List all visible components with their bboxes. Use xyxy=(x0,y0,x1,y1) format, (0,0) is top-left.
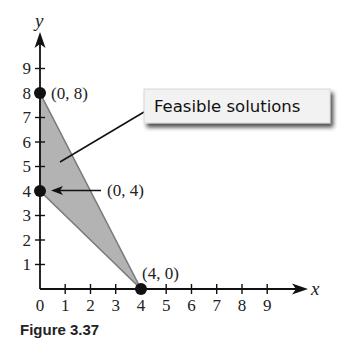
label-point-0-8: (0, 8) xyxy=(51,84,88,103)
svg-text:9: 9 xyxy=(263,296,272,315)
figure-caption: Figure 3.37 xyxy=(20,321,99,338)
svg-text:8: 8 xyxy=(23,84,32,103)
x-axis-label: x xyxy=(310,278,320,299)
svg-text:7: 7 xyxy=(23,108,32,127)
svg-text:7: 7 xyxy=(212,296,221,315)
y-axis-label: y xyxy=(33,10,44,31)
x-tick-labels: 0 1 2 3 4 5 6 7 8 9 xyxy=(36,296,272,315)
callout-text: Feasible solutions xyxy=(154,97,300,116)
label-point-4-0: (4, 0) xyxy=(142,264,179,283)
svg-text:5: 5 xyxy=(23,157,32,176)
callout-leader-line xyxy=(60,112,144,162)
svg-text:1: 1 xyxy=(23,255,32,274)
point-4-0 xyxy=(135,283,147,295)
svg-text:9: 9 xyxy=(23,59,32,78)
point-0-4 xyxy=(34,185,46,197)
svg-text:2: 2 xyxy=(23,231,32,250)
svg-text:5: 5 xyxy=(162,296,171,315)
label-point-0-4: (0, 4) xyxy=(107,181,144,200)
svg-text:8: 8 xyxy=(238,296,247,315)
svg-text:3: 3 xyxy=(23,206,32,225)
svg-text:4: 4 xyxy=(137,296,146,315)
svg-text:6: 6 xyxy=(23,133,32,152)
svg-text:0: 0 xyxy=(36,296,45,315)
svg-text:1: 1 xyxy=(61,296,70,315)
y-tick-labels: 1 2 3 4 5 6 7 8 9 xyxy=(23,59,32,274)
svg-text:6: 6 xyxy=(187,296,196,315)
svg-text:2: 2 xyxy=(86,296,95,315)
svg-text:4: 4 xyxy=(23,182,32,201)
svg-text:3: 3 xyxy=(111,296,120,315)
point-0-8 xyxy=(34,87,46,99)
